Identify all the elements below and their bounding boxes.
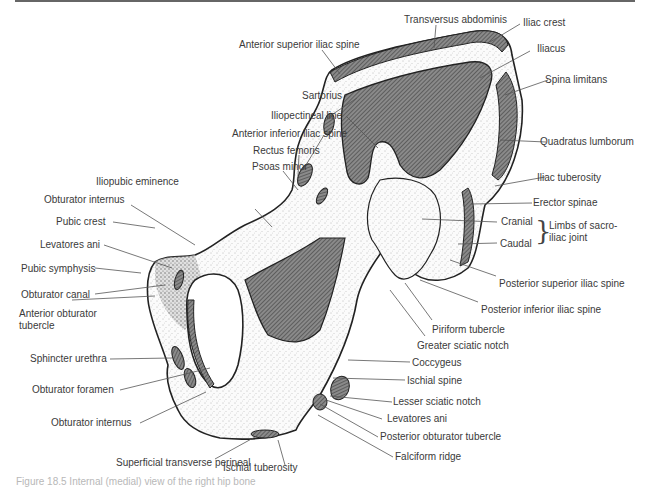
figure-caption: Figure 18.5 Internal (medial) view of th… [16,476,256,487]
label-obturator-foramen: Obturator foramen [32,384,114,396]
label-sphincter-urethra: Sphincter urethra [30,353,107,365]
label-obturator-canal: Obturator canal [21,289,90,301]
label-pubic-crest: Pubic crest [56,216,105,228]
label-limbs-of-sacroiliac-joint: Limbs of sacro-iliac joint [549,220,625,244]
label-obturator-internus-lower: Obturator internus [51,417,132,429]
label-iliacus: Iliacus [537,43,565,55]
label-psoas-minor: Psoas minor [252,161,308,173]
label-posterior-obturator-tubercle: Posterior obturator tubercle [380,431,501,443]
label-levatores-ani-right: Levatores ani [387,413,447,425]
label-posterior-inferior-iliac-spine: Posterior inferior iliac spine [481,304,601,316]
label-posterior-superior-iliac-spine: Posterior superior iliac spine [499,278,625,290]
label-sartorius: Sartorius [302,90,342,102]
label-anterior-inferior-iliac-spine: Anterior inferior iliac spine [232,128,347,140]
label-rectus-femoris: Rectus femoris [253,145,320,157]
label-iliac-tuberosity: Iliac tuberosity [537,172,601,184]
label-obturator-internus-upper: Obturator internus [44,194,125,206]
label-spina-limitans: Spina limitans [545,74,607,86]
label-anterior-superior-iliac-spine: Anterior superior iliac spine [239,39,360,51]
label-caudal: Caudal [500,238,532,250]
label-transversus-abdominis: Transversus abdominis [404,14,507,26]
label-quadratus-lumborum: Quadratus lumborum [540,136,634,148]
label-levatores-ani-left: Levatores ani [40,239,100,251]
label-lesser-sciatic-notch: Lesser sciatic notch [393,396,481,408]
label-cranial: Cranial [501,216,533,228]
label-iliopubic-eminence: Iliopubic eminence [96,176,179,188]
label-erector-spinae: Erector spinae [533,197,597,209]
label-iliopectineal-line: Iliopectineal line [271,110,342,122]
label-pubic-symphysis: Pubic symphysis [21,263,95,275]
label-piriform-tubercle: Piriform tubercle [432,324,505,336]
label-ischial-spine: Ischial spine [407,375,462,387]
label-coccygeus: Coccygeus [412,357,461,369]
label-anterior-obturator-tubercle: Anterior obturator tubercle [19,308,99,332]
label-falciform-ridge: Falciform ridge [395,451,461,463]
label-greater-sciatic-notch: Greater sciatic notch [417,340,509,352]
label-ischial-tuberosity: Ischial tuberosity [223,462,297,474]
label-iliac-crest: Iliac crest [523,17,565,29]
